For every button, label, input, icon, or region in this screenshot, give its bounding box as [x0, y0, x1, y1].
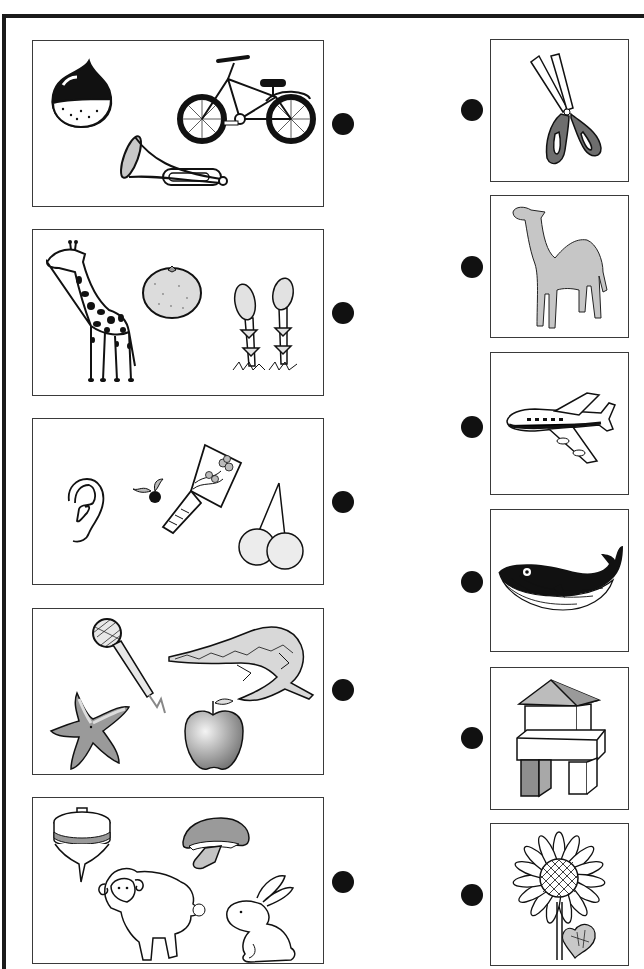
- airplane-icon: [505, 391, 617, 465]
- right-match-dot-6[interactable]: [461, 884, 483, 906]
- giraffe-icon: [45, 240, 145, 390]
- scissors-icon: [529, 54, 603, 168]
- right-match-dot-1[interactable]: [461, 99, 483, 121]
- left-match-dot-3[interactable]: [332, 491, 354, 513]
- sunflower-icon: [515, 832, 611, 962]
- orange-icon: [141, 264, 203, 320]
- left-group-5: spinning top mushroom sheep rabbit: [32, 797, 324, 964]
- left-match-dot-1[interactable]: [332, 113, 354, 135]
- left-match-dot-4[interactable]: [332, 679, 354, 701]
- right-match-dot-5[interactable]: [461, 727, 483, 749]
- ear-icon: [65, 477, 107, 545]
- building-blocks-icon: [517, 680, 607, 798]
- chestnut-icon: [47, 59, 117, 131]
- whale-icon: [497, 544, 625, 616]
- frame-left-border: [2, 14, 6, 969]
- cherries-icon: [235, 481, 307, 571]
- right-item-3: airplane: [490, 352, 629, 495]
- right-item-1: scissors: [490, 39, 629, 182]
- right-item-6: sunflower: [490, 823, 629, 966]
- apple-icon: [183, 697, 245, 773]
- right-item-2: camel: [490, 195, 629, 338]
- trumpet-icon: [121, 129, 231, 199]
- starfish-icon: [49, 691, 135, 771]
- right-match-dot-4[interactable]: [461, 571, 483, 593]
- left-match-dot-2[interactable]: [332, 302, 354, 324]
- battledore-icon: [161, 441, 243, 541]
- left-group-3: ear blueberry battledore (hagoita) cherr…: [32, 418, 324, 585]
- asparagus-icon: [231, 278, 301, 374]
- left-group-4: microphone crocodile starfish apple: [32, 608, 324, 775]
- rabbit-icon: [223, 874, 307, 964]
- right-match-dot-3[interactable]: [461, 416, 483, 438]
- crocodile-icon: [167, 623, 317, 707]
- camel-icon: [511, 206, 611, 330]
- left-group-2: giraffe mandarin orange aspar: [32, 229, 324, 396]
- right-item-5: building blocks: [490, 667, 629, 810]
- right-item-4: whale: [490, 509, 629, 652]
- sheep-icon: [95, 864, 207, 964]
- right-match-dot-2[interactable]: [461, 256, 483, 278]
- left-group-1: chestnut bicycle: [32, 40, 324, 207]
- frame-top-border: [2, 14, 644, 18]
- left-match-dot-5[interactable]: [332, 871, 354, 893]
